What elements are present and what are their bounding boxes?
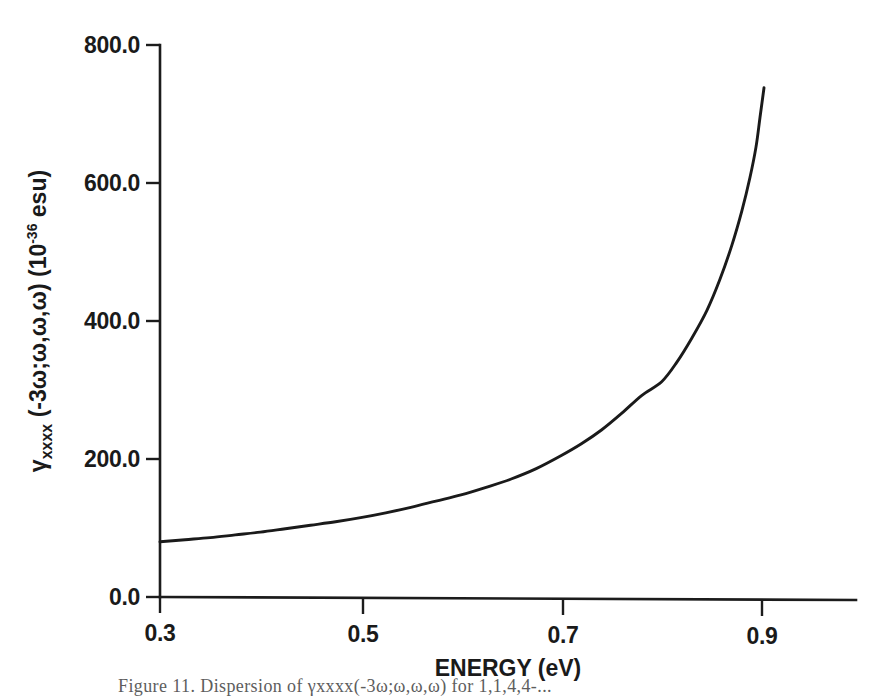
x-tick-label-0-9: 0.9 xyxy=(746,623,777,649)
y-axis-title: γxxxx (-3ω;ω,ω,ω) (10-36 esu) xyxy=(24,170,55,472)
y-axis-tick-labels: 800.0 600.0 400.0 200.0 0.0 xyxy=(84,32,140,610)
x-tick-label-0-3: 0.3 xyxy=(144,620,175,646)
y-title-arguments: (-3ω;ω,ω,ω) (10 xyxy=(25,244,51,424)
data-curve-gamma xyxy=(160,88,764,542)
dispersion-chart: 800.0 600.0 400.0 200.0 0.0 γxxxx (-3ω;ω… xyxy=(0,0,886,700)
y-title-unit: esu) xyxy=(25,170,51,224)
y-tick-label-400: 400.0 xyxy=(84,308,140,334)
figure-panel: 800.0 600.0 400.0 200.0 0.0 γxxxx (-3ω;ω… xyxy=(0,0,886,700)
y-tick-label-600: 600.0 xyxy=(84,170,140,196)
x-tick-label-0-5: 0.5 xyxy=(347,621,379,647)
y-title-exponent: -36 xyxy=(24,223,40,243)
y-tick-label-0: 0.0 xyxy=(109,584,140,610)
x-axis: 0.3 0.5 0.7 0.9 ENERGY (eV) xyxy=(144,597,856,681)
x-axis-line xyxy=(160,597,856,600)
y-tick-label-800: 800.0 xyxy=(84,32,140,58)
y-title-symbol: γ xyxy=(25,459,51,472)
x-tick-label-0-7: 0.7 xyxy=(547,622,578,648)
y-tick-label-200: 200.0 xyxy=(84,446,140,472)
svg-text:γxxxx (-3ω;ω,ω,ω) (10-36 esu): γxxxx (-3ω;ω,ω,ω) (10-36 esu) xyxy=(24,170,55,472)
y-axis-ticks xyxy=(146,45,160,597)
y-axis: 800.0 600.0 400.0 200.0 0.0 xyxy=(84,32,160,610)
figure-caption: Figure 11. Dispersion of γxxxx(-3ω;ω,ω,ω… xyxy=(118,676,878,697)
x-axis-tick-labels: 0.3 0.5 0.7 0.9 xyxy=(144,620,777,649)
y-title-subscript: xxxx xyxy=(38,424,55,460)
